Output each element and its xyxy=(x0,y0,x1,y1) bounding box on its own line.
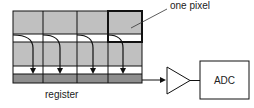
register-label: register xyxy=(45,89,79,100)
pixel-label: one pixel xyxy=(170,0,210,11)
amplifier-icon xyxy=(167,67,190,94)
ccd-diagram: one pixel register ADC xyxy=(0,0,254,108)
adc-label: ADC xyxy=(214,75,235,86)
